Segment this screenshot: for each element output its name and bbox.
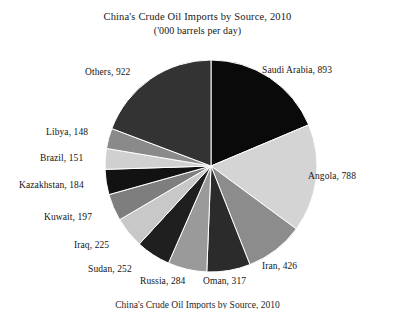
pie-chart-figure: China's Crude Oil Imports by Source, 201… [0, 0, 395, 309]
pie-slice-group [105, 60, 317, 272]
footnote-caption: China's Crude Oil Imports by Source, 201… [0, 300, 395, 309]
slice-label-kazakhstan: Kazakhstan, 184 [19, 181, 84, 191]
slice-label-sudan: Sudan, 252 [88, 265, 132, 275]
slice-label-libya: Libya, 148 [46, 128, 88, 138]
slice-label-angola: Angola, 788 [308, 172, 356, 182]
slice-label-others: Others, 922 [85, 68, 130, 78]
slice-label-iran: Iran, 426 [262, 262, 297, 272]
slice-label-russia: Russia, 284 [140, 277, 185, 287]
slice-label-kuwait: Kuwait, 197 [44, 213, 92, 223]
slice-label-brazil: Brazil, 151 [40, 154, 83, 164]
slice-label-oman: Oman, 317 [203, 277, 246, 287]
slice-label-iraq: Iraq, 225 [74, 241, 109, 251]
slice-label-saudi-arabia: Saudi Arabia, 893 [262, 66, 332, 76]
